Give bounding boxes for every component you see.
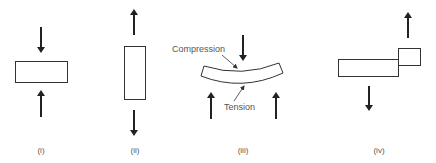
block-long [339, 60, 399, 77]
caption-iv: (iv) [373, 146, 384, 155]
curved-beam [201, 63, 283, 83]
stress-types-diagram: (i) (ii) Compression Tension (iii) (iv) [0, 0, 436, 163]
block-horizontal [16, 62, 68, 83]
panel-iv-shear: (iv) [339, 15, 421, 155]
panel-i-compression: (i) [16, 27, 68, 155]
compression-pointer [222, 55, 237, 68]
compression-label: Compression [172, 44, 225, 54]
panel-ii-tension: (ii) [125, 12, 146, 155]
block-vertical [125, 47, 146, 100]
block-short-offset [399, 49, 421, 66]
tension-label: Tension [224, 102, 255, 112]
caption-iii: (iii) [238, 146, 249, 155]
caption-ii: (ii) [131, 146, 140, 155]
panel-iii-bending: Compression Tension (iii) [172, 35, 283, 155]
tension-pointer [234, 86, 244, 101]
caption-i: (i) [37, 146, 44, 155]
